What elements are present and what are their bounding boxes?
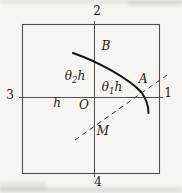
theta2-h-suffix: h	[77, 69, 85, 83]
label-point-M: M	[97, 125, 109, 137]
label-bottom-4: 4	[94, 176, 102, 188]
theta1-h-suffix: h	[114, 80, 122, 94]
diagram-svg	[0, 0, 182, 193]
label-theta1-h: θ1h	[102, 81, 122, 95]
label-right-1: 1	[164, 87, 172, 99]
label-left-3: 3	[6, 89, 14, 101]
figure-canvas: 2 4 3 1 B A O M h θ2h θ1h	[0, 0, 182, 193]
label-top-2: 2	[93, 5, 101, 17]
label-origin-O: O	[79, 99, 89, 111]
label-theta2-h: θ2h	[65, 70, 85, 84]
label-h: h	[53, 97, 61, 109]
label-point-A: A	[139, 73, 148, 85]
grid-square-box	[23, 25, 160, 174]
label-point-B: B	[102, 40, 111, 52]
